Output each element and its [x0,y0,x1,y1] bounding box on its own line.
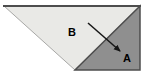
diagram-canvas: B A [0,0,145,75]
label-a: A [123,52,131,64]
triangle-diagram: B A [0,0,145,75]
label-b: B [68,26,76,38]
